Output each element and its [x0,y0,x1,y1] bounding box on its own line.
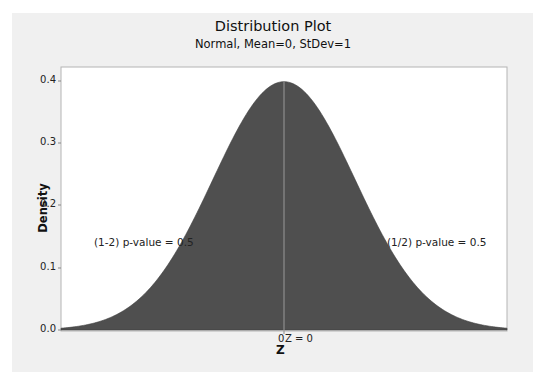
y-tick-label: 0.0 [26,323,56,334]
x-axis-label: Z [276,343,285,357]
y-tick-label: 0.1 [26,261,56,272]
z-annotation: Z = 0 [285,333,313,344]
y-tick-label: 0.2 [26,198,56,209]
left-tail-annotation: (1-2) p-value = 0.5 [94,236,194,248]
right-tail-annotation: (1/2) p-value = 0.5 [387,236,486,248]
y-tick-label: 0.4 [26,74,56,85]
y-tick-label: 0.3 [26,136,56,147]
plot-area [0,0,546,380]
